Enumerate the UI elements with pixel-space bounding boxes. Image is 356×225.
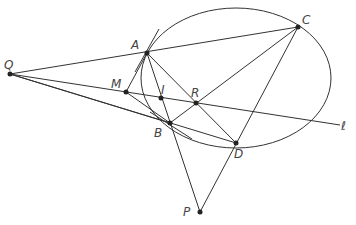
line-CP bbox=[200, 27, 298, 212]
label-line-l: ℓ bbox=[340, 119, 346, 133]
circle-conic bbox=[141, 8, 331, 148]
point-D bbox=[234, 141, 239, 146]
point-Q bbox=[8, 72, 13, 77]
geometry-diagram: Q A C M I R B D P ℓ bbox=[0, 0, 356, 225]
label-B: B bbox=[154, 126, 162, 140]
line-AM bbox=[126, 53, 147, 92]
label-I: I bbox=[161, 83, 165, 97]
label-R: R bbox=[191, 86, 199, 100]
line-QC bbox=[10, 27, 298, 74]
label-Q: Q bbox=[4, 58, 13, 72]
point-P bbox=[198, 210, 203, 215]
label-D: D bbox=[234, 147, 243, 161]
point-M bbox=[124, 90, 129, 95]
point-B bbox=[168, 121, 173, 126]
point-R bbox=[194, 101, 199, 106]
label-A: A bbox=[130, 38, 139, 52]
diagram-canvas: Q A C M I R B D P ℓ bbox=[0, 0, 356, 225]
point-C bbox=[296, 25, 301, 30]
label-M: M bbox=[111, 77, 122, 91]
label-C: C bbox=[302, 13, 311, 27]
label-P: P bbox=[183, 205, 191, 219]
point-A bbox=[145, 51, 150, 56]
